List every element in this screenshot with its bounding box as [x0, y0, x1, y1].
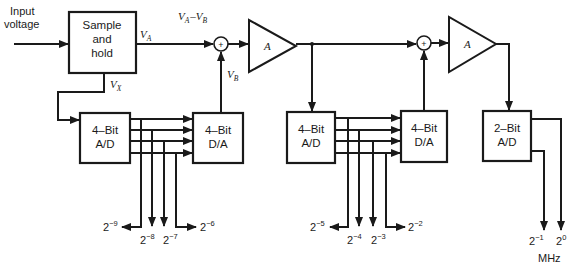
bit-2-6: 2−6: [200, 219, 215, 233]
bit-2-3: 2−3: [371, 232, 386, 246]
summing-junction-2: +: [417, 36, 431, 50]
amplifier-1: A: [249, 20, 296, 72]
msb-note: MHz: [538, 252, 561, 264]
bit-2-9: 2−9: [103, 219, 118, 233]
input-signal: Input voltage: [4, 5, 68, 44]
adc1-label-2: A/D: [95, 138, 114, 150]
bit-2-1: 2−1: [529, 233, 544, 247]
svg-text:+: +: [218, 40, 223, 50]
dac1-label-2: D/A: [208, 138, 228, 150]
adc-4bit-stage1: 4–Bit A/D: [80, 113, 130, 163]
adc-block-diagram: Input voltage Sample and hold VA VA–VB +…: [0, 0, 583, 275]
sample-and-hold-block: Sample and hold: [69, 12, 136, 73]
adc2-label-1: 4–Bit: [298, 123, 325, 135]
amplifier-2: A: [449, 17, 496, 72]
adc3-label-2: A/D: [497, 136, 516, 148]
svg-text:+: +: [421, 39, 426, 49]
data-bus-stage1: [122, 119, 196, 227]
difference-label: VA–VB: [178, 10, 208, 25]
sample-hold-label-2: and: [92, 33, 111, 45]
adc2-label-2: A/D: [301, 137, 320, 149]
bit-2-4: 2−4: [347, 232, 362, 246]
adc1-label-1: 4–Bit: [92, 124, 119, 136]
summing-junction-1: +: [214, 37, 228, 51]
input-label-line1: Input: [10, 5, 34, 17]
bit-2-7: 2−7: [163, 232, 178, 246]
bit-2-1-output: [531, 151, 544, 230]
adc-2bit-stage3: 2–Bit A/D: [483, 111, 531, 161]
data-bus-stage2: [330, 118, 405, 227]
amp2-gain-label: A: [463, 38, 471, 50]
dac1-label-1: 4–Bit: [205, 124, 232, 136]
dac-4bit-stage2: 4–Bit D/A: [401, 111, 447, 162]
vb-label: VB: [227, 68, 239, 83]
adc3-label-1: 2–Bit: [494, 122, 521, 134]
sample-hold-label-1: Sample: [83, 19, 122, 31]
amp1-gain-label: A: [263, 40, 271, 52]
input-label-line2: voltage: [4, 18, 39, 30]
va-label: VA: [140, 28, 152, 43]
bit-2-2: 2−2: [408, 219, 423, 233]
adc-4bit-stage2: 4–Bit A/D: [287, 112, 335, 163]
dac2-label-2: D/A: [414, 136, 434, 148]
amp2-to-adc3-arrow: [496, 44, 509, 110]
bit-2-0-output: [531, 119, 561, 230]
vx-label: VX: [110, 78, 122, 93]
sample-hold-label-3: hold: [91, 47, 113, 59]
bit-2-8: 2−8: [140, 232, 155, 246]
dac2-label-1: 4–Bit: [411, 122, 438, 134]
bit-2-5: 2−5: [310, 219, 325, 233]
dac-4bit-stage1: 4–Bit D/A: [193, 113, 243, 163]
bit-2-0: 20: [556, 233, 566, 247]
